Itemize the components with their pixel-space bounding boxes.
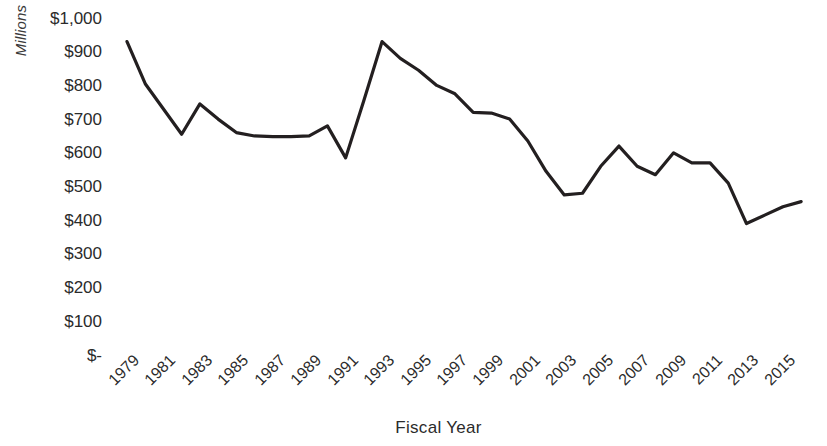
x-axis-tick-labels: 1979198119831985198719891991199319951997…: [0, 352, 827, 412]
plot-area: [0, 0, 827, 380]
x-axis-tick-label: 2007: [609, 352, 653, 396]
x-axis-tick-label: 1991: [317, 352, 361, 396]
x-axis-tick-label: 1985: [208, 352, 252, 396]
x-axis-tick-label: 2005: [572, 352, 616, 396]
x-axis-tick-label: 2009: [645, 352, 689, 396]
x-axis-tick-label: 1983: [171, 352, 215, 396]
x-axis-title: Fiscal Year: [0, 418, 827, 438]
x-axis-tick-label: 1979: [98, 352, 142, 396]
x-axis-tick-label: 1995: [390, 352, 434, 396]
x-axis-tick-label: 2001: [499, 352, 543, 396]
x-axis-tick-label: 2011: [682, 352, 726, 396]
x-axis-title-text: Fiscal Year: [395, 418, 481, 438]
x-axis-tick-label: 1981: [135, 352, 179, 396]
x-axis-tick-label: 2013: [718, 352, 762, 396]
x-axis-tick-label: 1989: [281, 352, 325, 396]
line-chart: Millions $-$100$200$300$400$500$600$700$…: [0, 0, 827, 446]
x-axis-tick-label: 1999: [463, 352, 507, 396]
data-line-series: [0, 0, 827, 380]
x-axis-tick-label: 1997: [426, 352, 470, 396]
x-axis-tick-label: 1993: [354, 352, 398, 396]
x-axis-tick-label: 2015: [754, 352, 798, 396]
x-axis-tick-label: 2003: [536, 352, 580, 396]
x-axis-tick-label: 1987: [244, 352, 288, 396]
